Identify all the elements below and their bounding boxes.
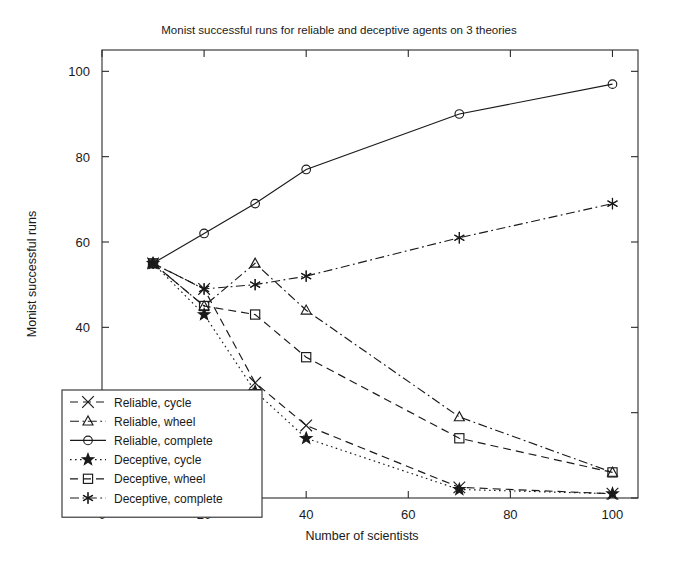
legend-label: Reliable, cycle: [114, 396, 192, 410]
y-tick-label: 80: [76, 150, 90, 165]
y-tick-label: 40: [76, 320, 90, 335]
chart-legend: Reliable, cycleReliable, wheelReliable, …: [62, 390, 262, 517]
chart-figure: Monist successful runs for reliable and …: [0, 0, 679, 564]
legend-label: Reliable, complete: [114, 434, 213, 448]
y-tick-label: 100: [68, 64, 90, 79]
legend-label: Deceptive, wheel: [114, 472, 205, 486]
y-axis-title: Monist successful runs: [25, 211, 39, 337]
legend-label: Reliable, wheel: [114, 415, 195, 429]
legend-label: Deceptive, cycle: [114, 453, 202, 467]
x-axis-title: Number of scientists: [305, 529, 418, 543]
x-tick-label: 80: [503, 507, 517, 522]
legend-label: Deceptive, complete: [114, 492, 223, 506]
x-tick-label: 40: [299, 507, 313, 522]
x-tick-label: 100: [602, 507, 624, 522]
y-tick-label: 60: [76, 235, 90, 250]
x-tick-label: 60: [401, 507, 415, 522]
chart-title: Monist successful runs for reliable and …: [161, 24, 517, 36]
